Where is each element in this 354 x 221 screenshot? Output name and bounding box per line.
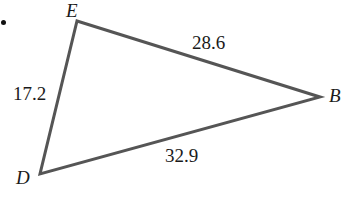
vertex-label-d: D xyxy=(16,168,30,187)
triangle-figure: E B D 28.6 17.2 32.9 xyxy=(0,0,354,221)
triangle-shape xyxy=(0,0,354,221)
side-length-label-eb: 28.6 xyxy=(192,33,225,52)
vertex-label-e: E xyxy=(66,1,78,20)
side-length-label-de: 17.2 xyxy=(13,84,46,103)
vertex-label-b: B xyxy=(329,86,341,105)
side-length-label-db: 32.9 xyxy=(165,146,198,165)
